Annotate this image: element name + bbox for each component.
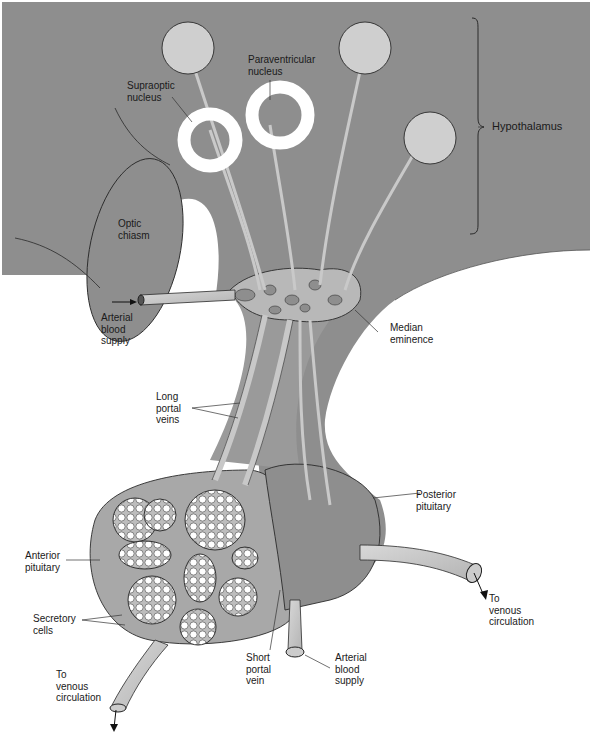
arterial-vessel-bottom-opening [286,647,304,657]
arterial-vessel-top-opening [138,295,144,305]
label-arterial-blood-supply-bottom: Arterial blood supply [335,652,367,687]
venous-vessel-left-opening [110,704,126,712]
label-long-portal-veins: Long portal veins [156,391,181,426]
posterior-pituitary [265,464,380,610]
venous-vessel-left [112,640,168,710]
label-secretory-cells: Secretory cells [33,613,76,636]
label-supraoptic-nucleus: Supraoptic nucleus [127,80,175,103]
arterial-vessel-bottom [288,600,302,650]
label-optic-chiasm: Optic chiasm [118,218,150,241]
label-anterior-pituitary: Anterior pituitary [25,550,60,573]
label-to-venous-circulation-left: To venous circulation [56,669,101,704]
label-to-venous-circulation-right: To venous circulation [489,593,534,628]
label-posterior-pituitary: Posterior pituitary [416,489,456,512]
venous-vessel-right [360,545,475,580]
label-paraventricular-nucleus: Paraventricular nucleus [248,54,315,77]
label-hypothalamus: Hypothalamus [492,121,562,133]
label-short-portal-vein: Short portal vein [246,652,271,687]
label-median-eminence: Median eminence [390,322,433,345]
label-arterial-blood-supply-top: Arterial blood supply [101,312,133,347]
